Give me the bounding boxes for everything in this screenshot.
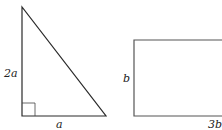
right-angle-marker: [22, 103, 35, 116]
right-triangle: 2a a: [3, 7, 106, 130]
geometry-figure: 2a a b 3b: [0, 0, 222, 130]
rectangle-width-label: 3b: [208, 118, 222, 130]
rectangle-height-label: b: [123, 72, 130, 85]
triangle-height-label: 2a: [3, 67, 18, 80]
rectangle: b 3b: [123, 40, 222, 130]
triangle-outline: [22, 7, 106, 116]
rectangle-outline: [134, 40, 222, 116]
triangle-base-label: a: [56, 118, 63, 130]
